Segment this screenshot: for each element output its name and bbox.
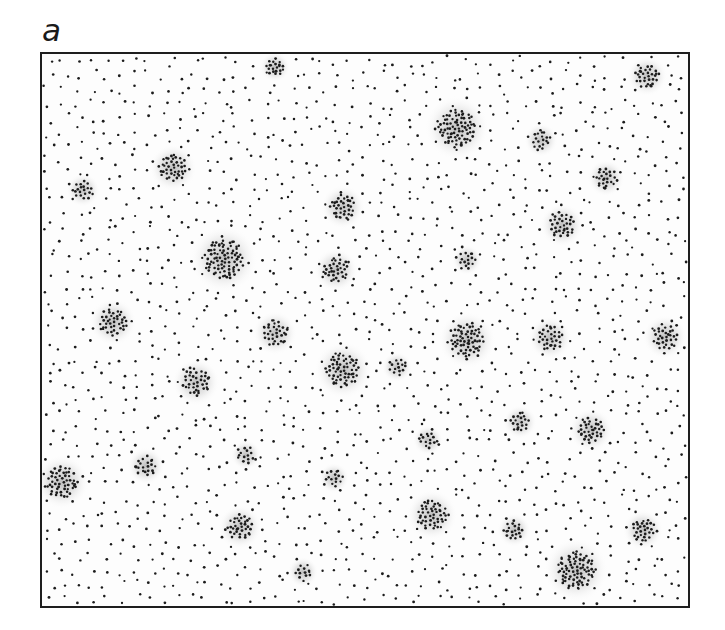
panel-label: a — [42, 12, 61, 48]
dot-clusters — [46, 57, 678, 589]
stipple-plot-frame — [40, 52, 690, 608]
background-dots — [42, 54, 687, 605]
dot-field — [42, 54, 688, 606]
cluster-halos — [42, 54, 687, 602]
